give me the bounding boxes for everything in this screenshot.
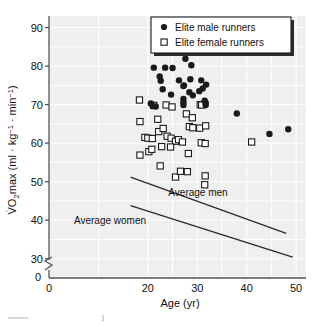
data-point-female	[190, 125, 196, 131]
data-point-male	[200, 85, 206, 91]
data-point-female	[157, 163, 163, 169]
data-point-male	[182, 56, 188, 62]
data-point-male	[169, 65, 175, 71]
data-point-male	[188, 62, 194, 68]
data-point-female	[137, 152, 143, 158]
legend-label-male: Elite male runners	[175, 22, 256, 33]
data-point-female	[249, 139, 255, 145]
annotation-average-men: Average men	[168, 187, 227, 198]
data-point-male	[180, 83, 186, 89]
x-axis-title: Age (yr)	[160, 297, 199, 309]
x-tick-label: 0	[46, 282, 52, 294]
legend-marker-male	[161, 24, 167, 30]
y-tick-label: 80	[31, 60, 43, 72]
data-point-female	[189, 115, 195, 121]
data-point-male	[180, 102, 186, 108]
data-point-female	[203, 123, 209, 129]
data-point-female	[160, 125, 166, 131]
data-point-female	[149, 135, 155, 141]
data-point-female	[155, 116, 161, 122]
data-point-female	[136, 97, 142, 103]
y-tick-label: 90	[31, 22, 43, 34]
data-point-male	[176, 77, 182, 83]
data-point-male	[157, 78, 163, 84]
x-tick-label: 30	[191, 282, 203, 294]
data-point-female	[163, 102, 169, 108]
data-point-male	[234, 110, 240, 116]
data-point-male	[151, 64, 157, 70]
x-tick-label: 50	[290, 282, 302, 294]
data-point-female	[149, 146, 155, 152]
data-point-male	[153, 103, 159, 109]
data-point-male	[202, 102, 208, 108]
data-point-female	[167, 144, 173, 150]
data-point-female	[184, 169, 190, 175]
x-tick-label: 40	[241, 282, 253, 294]
y-tick-label: 40	[31, 214, 43, 226]
data-point-male	[266, 131, 272, 137]
data-point-male	[168, 91, 174, 97]
annotation-average-women: Average women	[74, 215, 146, 226]
y-axis-break-zero-label: 0	[35, 271, 41, 283]
legend-label-female: Elite female runners	[175, 37, 264, 48]
legend: Elite male runners Elite female runners	[151, 17, 294, 56]
y-tick-label: 50	[31, 176, 43, 188]
data-point-female	[137, 118, 143, 124]
data-point-female	[197, 125, 203, 131]
vo2max-scatter-chart: 30405060708090 020304050 0 V̇O2max (ml ·…	[0, 0, 314, 327]
data-point-male	[198, 77, 204, 83]
data-point-female	[159, 144, 165, 150]
data-point-female	[185, 150, 191, 156]
data-point-female	[177, 168, 183, 174]
data-point-female	[202, 140, 208, 146]
y-tick-label: 60	[31, 137, 43, 149]
y-tick-label: 30	[31, 253, 43, 265]
data-point-male	[187, 76, 193, 82]
data-point-male	[285, 126, 291, 132]
legend-marker-female	[161, 39, 167, 45]
data-point-male	[190, 92, 196, 98]
data-point-female	[202, 173, 208, 179]
data-point-female	[169, 104, 175, 110]
data-point-female	[183, 111, 189, 117]
x-tick-label: 20	[142, 282, 154, 294]
data-point-male	[162, 64, 168, 70]
data-point-male	[159, 86, 165, 92]
data-point-female	[179, 139, 185, 145]
y-tick-label: 70	[31, 99, 43, 111]
